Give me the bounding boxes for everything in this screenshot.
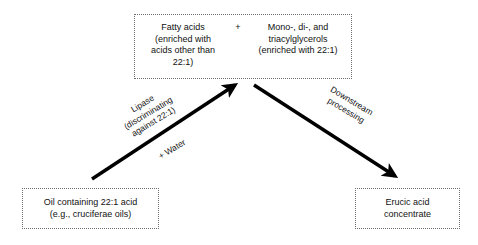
products-right-line-2: triacylglycerols (268, 34, 327, 46)
products-left-column: Fatty acids (enriched with acids other t… (139, 22, 227, 68)
products-right-line-3: (enriched with 22:1) (258, 45, 337, 57)
products-left-line-2: (enriched with (155, 34, 211, 46)
products-left-line-4: 22:1) (173, 57, 194, 69)
node-erucic-acid-concentrate: Erucic acid concentrate (355, 188, 460, 229)
edge-label-water: + Water (142, 128, 202, 170)
products-left-line-3: acids other than (151, 45, 215, 57)
product-out-line-1: Erucic acid (385, 197, 429, 209)
products-right-column: Mono-, di-, and triacylglycerols (enrich… (249, 22, 347, 57)
node-fatty-acids-and-glycerols: Fatty acids (enriched with acids other t… (134, 14, 352, 79)
products-left-line-1: Fatty acids (161, 22, 205, 34)
node-oil-containing-22-1-acid: Oil containing 22:1 acid (e.g., crucifer… (22, 188, 159, 229)
plus-separator: + (227, 22, 249, 34)
feed-line-1: Oil containing 22:1 acid (44, 197, 138, 209)
edge-label-downstream-processing: Downstream processing (307, 74, 392, 136)
process-flow-diagram: Fatty acids (enriched with acids other t… (0, 0, 478, 245)
product-out-line-2: concentrate (384, 209, 431, 221)
products-right-line-1: Mono-, di-, and (268, 22, 329, 34)
feed-line-2: (e.g., cruciferae oils) (50, 209, 132, 221)
